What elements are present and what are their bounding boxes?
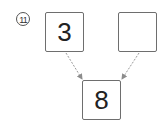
problem-number-badge: 11 bbox=[16, 12, 30, 26]
answer-box-top-right[interactable] bbox=[118, 12, 157, 52]
number-box-top-left: 3 bbox=[45, 12, 84, 52]
arrow-left-to-bottom bbox=[66, 53, 82, 79]
number-box-bottom-total: 8 bbox=[82, 80, 121, 120]
arrow-right-to-bottom bbox=[122, 53, 139, 79]
